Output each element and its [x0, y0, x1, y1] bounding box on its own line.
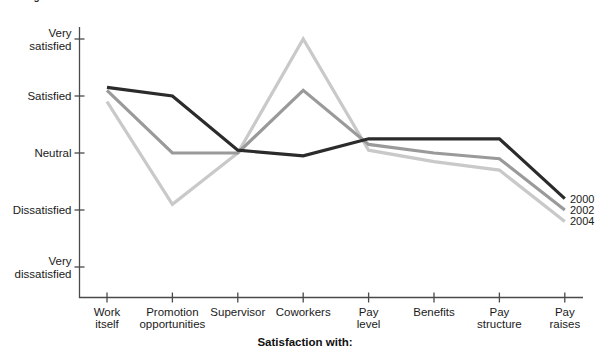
- legend-item-2004: 2004: [570, 215, 594, 227]
- series-line-2000: [107, 87, 565, 198]
- chart-series-layer: [107, 39, 565, 221]
- x-axis-title: Satisfaction with:: [0, 336, 610, 348]
- y-axis-label: Very satisfied: [0, 27, 72, 52]
- y-axis-label: Very dissatisfied: [0, 255, 72, 280]
- x-axis-label: Pay raises: [510, 306, 610, 331]
- y-axis-label: Neutral: [0, 147, 72, 160]
- y-axis-label: Dissatisfied: [0, 204, 72, 217]
- series-line-2002: [107, 90, 565, 210]
- satisfaction-line-chart: Average level of satisfaction with facet…: [0, 0, 610, 354]
- legend-item-2002: 2002: [570, 204, 594, 216]
- plot-area: [0, 0, 610, 354]
- y-axis-label: Satisfied: [0, 90, 72, 103]
- series-line-2004: [107, 39, 565, 221]
- legend-item-2000: 2000: [570, 193, 594, 205]
